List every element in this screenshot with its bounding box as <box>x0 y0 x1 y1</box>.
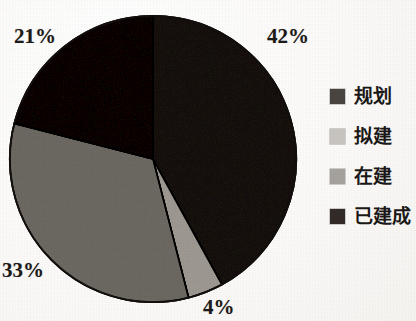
legend-label-planning: 规划 <box>354 86 392 106</box>
legend-label-completed: 已建成 <box>354 206 410 226</box>
pie-label-completed: 21% <box>14 24 56 49</box>
legend-swatch-icon-proposed <box>330 129 345 144</box>
legend-swatch-icon-completed <box>330 209 345 224</box>
legend-swatch-icon-under-construction <box>330 169 345 184</box>
pie-chart-figure: 42% 21% 33% 4% 规划 拟建 在建 已建成 <box>0 0 416 321</box>
pie-label-under-construction: 33% <box>2 258 44 283</box>
legend-label-under-construction: 在建 <box>354 166 392 186</box>
legend-swatch-icon-planning <box>330 89 345 104</box>
legend-label-proposed: 拟建 <box>354 126 392 146</box>
pie-label-proposed: 4% <box>203 295 235 320</box>
legend-item-proposed[interactable]: 拟建 <box>330 116 416 156</box>
legend-item-completed[interactable]: 已建成 <box>330 196 416 236</box>
legend-item-planning[interactable]: 规划 <box>330 76 416 116</box>
pie-label-planning: 42% <box>267 24 309 49</box>
chart-legend: 规划 拟建 在建 已建成 <box>330 76 416 236</box>
pie-chart-svg <box>8 14 298 304</box>
pie-chart <box>8 14 298 304</box>
legend-item-under-construction[interactable]: 在建 <box>330 156 416 196</box>
